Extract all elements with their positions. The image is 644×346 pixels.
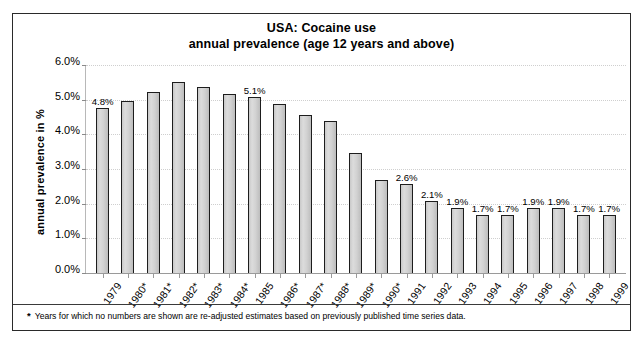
bar-value-label: 2.6% (396, 172, 418, 183)
bar-slot (166, 66, 191, 274)
bar-slot (141, 66, 166, 274)
bar-value-label: 5.1% (244, 85, 266, 96)
chart-frame: USA: Cocaine use annual prevalence (age … (12, 13, 631, 331)
y-tick-label: 3.0% (55, 159, 80, 171)
y-axis-title: annual prevalence in % (34, 87, 46, 257)
bar[interactable] (324, 121, 337, 274)
bar-slot (318, 66, 343, 274)
bar-slot: 4.8% (90, 66, 115, 274)
bar-value-label: 4.8% (92, 96, 114, 107)
y-tick-label: 5.0% (55, 90, 80, 102)
x-axis-baseline (86, 273, 626, 274)
chart-title: USA: Cocaine use (13, 21, 630, 37)
bar-slot (115, 66, 140, 274)
bar-value-label: 1.7% (598, 203, 620, 214)
bar[interactable] (425, 201, 438, 274)
bar[interactable] (172, 82, 185, 274)
bar-series: 4.8%5.1%2.6%2.1%1.9%1.7%1.7%1.9%1.9%1.7%… (86, 66, 626, 274)
bar[interactable] (577, 215, 590, 274)
bar-slot: 1.7% (470, 66, 495, 274)
bar-slot: 1.9% (521, 66, 546, 274)
bar-slot (343, 66, 368, 274)
bar[interactable] (603, 215, 616, 274)
bar-slot: 2.6% (394, 66, 419, 274)
bar[interactable] (96, 108, 109, 274)
bar[interactable] (552, 208, 565, 274)
bar-slot: 1.7% (571, 66, 596, 274)
bar-slot (293, 66, 318, 274)
bar-value-label: 1.9% (522, 196, 544, 207)
bar[interactable] (147, 92, 160, 274)
bar-slot: 2.1% (419, 66, 444, 274)
footnote-marker: * (27, 310, 31, 321)
bar-value-label: 1.7% (497, 203, 519, 214)
chart-subtitle: annual prevalence (age 12 years and abov… (13, 37, 630, 53)
bar[interactable] (299, 115, 312, 274)
bar[interactable] (349, 153, 362, 274)
bar-slot: 1.7% (495, 66, 520, 274)
bar[interactable] (273, 104, 286, 274)
footnote-divider (13, 304, 630, 305)
bar[interactable] (451, 208, 464, 274)
bar-slot (217, 66, 242, 274)
bar-slot: 1.7% (597, 66, 622, 274)
footnote-text: Years for which no numbers are shown are… (35, 311, 466, 321)
y-tick-label: 2.0% (55, 194, 80, 206)
bar-slot: 5.1% (242, 66, 267, 274)
y-tick-label: 0.0% (55, 263, 80, 275)
plot-inner: 0.0%1.0%2.0%3.0%4.0%5.0%6.0% 4.8%5.1%2.6… (85, 66, 626, 274)
plot-area: 0.0%1.0%2.0%3.0%4.0%5.0%6.0% 4.8%5.1%2.6… (85, 66, 626, 274)
bar[interactable] (197, 87, 210, 274)
footnote: *Years for which no numbers are shown ar… (27, 310, 622, 322)
bar[interactable] (400, 184, 413, 274)
bar-value-label: 1.7% (573, 203, 595, 214)
bar-slot: 1.9% (445, 66, 470, 274)
bar-value-label: 1.9% (548, 196, 570, 207)
bar[interactable] (248, 97, 261, 274)
bar-value-label: 2.1% (421, 189, 443, 200)
y-tick-label: 6.0% (55, 55, 80, 67)
chart-title-block: USA: Cocaine use annual prevalence (age … (13, 21, 630, 52)
y-tick-label: 4.0% (55, 124, 80, 136)
x-tick-label: 1999 (607, 280, 630, 306)
bar[interactable] (501, 215, 514, 274)
y-tick-label: 1.0% (55, 228, 80, 240)
bar-slot: 1.9% (546, 66, 571, 274)
bar[interactable] (375, 180, 388, 274)
bar-value-label: 1.7% (472, 203, 494, 214)
bar-value-label: 1.9% (446, 196, 468, 207)
bar[interactable] (476, 215, 489, 274)
bar[interactable] (527, 208, 540, 274)
bar-slot (369, 66, 394, 274)
bar-slot (191, 66, 216, 274)
bar[interactable] (121, 101, 134, 274)
bar[interactable] (223, 94, 236, 274)
bar-slot (267, 66, 292, 274)
